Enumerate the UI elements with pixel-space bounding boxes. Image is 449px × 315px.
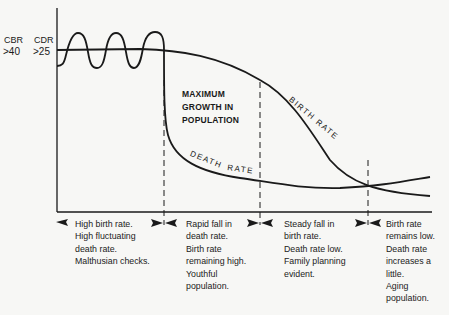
arrow-right-icon: [151, 219, 163, 227]
stage-2-description: Rapid fall indeath rate.Birth rateremain…: [186, 218, 246, 292]
arrow-left-icon: [261, 219, 273, 227]
arrow-left-icon: [165, 219, 177, 227]
arrow-right-icon: [247, 219, 259, 227]
cbr-label: CBR: [4, 35, 23, 45]
cbr-value: >40: [3, 46, 20, 57]
cdr-value: >25: [33, 46, 50, 57]
stage-3-description: Steady fall inbirth rate.Death rate low.…: [284, 218, 346, 280]
growth-label-2: GROWTH IN: [182, 101, 233, 113]
stage-1-description: High birth rate.High fluctuatingdeath ra…: [75, 218, 150, 268]
cdr-label: CDR: [34, 35, 54, 45]
growth-label-3: POPULATION: [182, 114, 239, 126]
stage-4-description: Birth rateremains low.Death rateincrease…: [386, 218, 435, 305]
arrow-right-icon: [355, 219, 367, 227]
arrow-left-icon: [369, 219, 381, 227]
growth-label-1: MAXIMUM: [182, 88, 225, 100]
arrow-left-icon: [56, 219, 68, 226]
